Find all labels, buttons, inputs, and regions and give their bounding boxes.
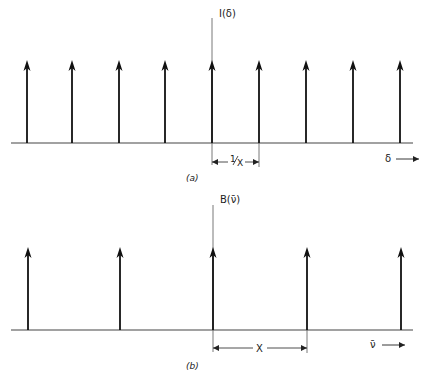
panel-b-y-label: B(ν̄)	[220, 194, 240, 205]
panel-b-delta-arrows	[25, 247, 405, 330]
panel-a-caption: (a)	[186, 173, 199, 183]
panel-b-caption: (b)	[186, 361, 199, 371]
panel-b-spacing-label: X	[256, 343, 263, 354]
panel-a-interferogram: I(δ) 1 X δ (a)	[11, 8, 419, 183]
comb-function-diagram: I(δ) 1 X δ (a) B(ν̄) X ν̄ (b)	[0, 0, 423, 385]
panel-b-spectrum: B(ν̄) X ν̄ (b)	[11, 194, 413, 371]
panel-b-x-label: ν̄	[370, 339, 376, 350]
panel-a-x-label: δ	[385, 153, 391, 164]
panel-a-y-label: I(δ)	[219, 8, 236, 19]
panel-a-spacing-num: 1	[230, 154, 236, 164]
panel-a-delta-arrows	[24, 60, 404, 143]
panel-a-spacing-den: X	[237, 158, 243, 168]
